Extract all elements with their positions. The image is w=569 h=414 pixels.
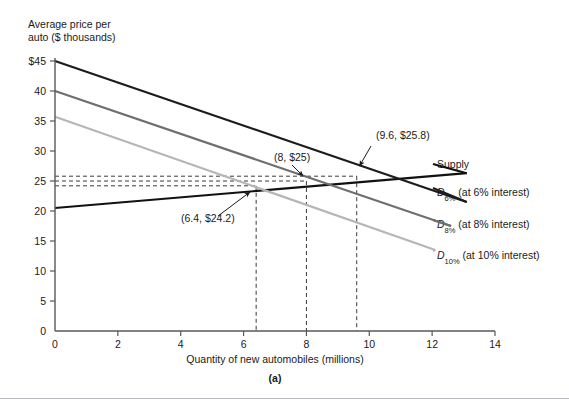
x-tick-label: 8 bbox=[304, 338, 310, 350]
curve-label-d10: D10% (at 10% interest) bbox=[437, 249, 540, 266]
leader-line bbox=[433, 250, 435, 251]
panel-caption: (a) bbox=[269, 372, 282, 384]
x-tick-label: 10 bbox=[363, 338, 375, 350]
y-tick-label: 5 bbox=[40, 295, 46, 307]
y-tick-label: 10 bbox=[34, 265, 46, 277]
annotation-equilibrium-d8: (8, $25) bbox=[274, 151, 310, 163]
x-tick-label: 6 bbox=[241, 338, 247, 350]
curve-d8% bbox=[55, 91, 451, 226]
plot-area: $45403530252015105002468101214SupplyD6% … bbox=[28, 55, 539, 350]
annotation-equilibrium-d10: (6.4, $24.2) bbox=[181, 212, 235, 224]
x-tick-label: 4 bbox=[178, 338, 184, 350]
y-tick-label: 15 bbox=[34, 235, 46, 247]
x-tick-label: 14 bbox=[489, 338, 501, 350]
y-tick-label: 0 bbox=[40, 325, 46, 337]
y-axis-title-line2: auto ($ thousands) bbox=[28, 31, 116, 43]
supply-demand-figure: Average price per auto ($ thousands) $45… bbox=[0, 0, 569, 414]
x-tick-label: 12 bbox=[426, 338, 438, 350]
x-tick-label: 2 bbox=[115, 338, 121, 350]
x-axis-title: Quantity of new automobiles (millions) bbox=[186, 353, 363, 365]
annotation-equilibrium-d6: (9.6, $25.8) bbox=[376, 129, 430, 141]
curve-supply bbox=[55, 173, 467, 208]
y-tick-label: 30 bbox=[34, 145, 46, 157]
y-tick-label: 40 bbox=[34, 85, 46, 97]
curve-label-supply: Supply bbox=[437, 158, 470, 170]
y-axis-title-line1: Average price per bbox=[28, 18, 111, 30]
annotation-arrow bbox=[360, 146, 372, 166]
y-tick-label: 35 bbox=[34, 115, 46, 127]
x-tick-label: 0 bbox=[52, 338, 58, 350]
y-tick-label: 25 bbox=[34, 175, 46, 187]
y-tick-label: $45 bbox=[28, 55, 46, 67]
y-tick-label: 20 bbox=[34, 205, 46, 217]
